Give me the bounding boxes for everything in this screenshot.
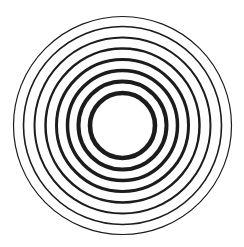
ring-2 xyxy=(24,27,222,225)
concentric-circles-graphic xyxy=(0,0,244,247)
ring-3 xyxy=(35,38,211,214)
ring-6 xyxy=(68,71,178,181)
ring-5 xyxy=(57,60,189,192)
ring-8 xyxy=(90,93,155,158)
rings-svg xyxy=(0,0,244,247)
